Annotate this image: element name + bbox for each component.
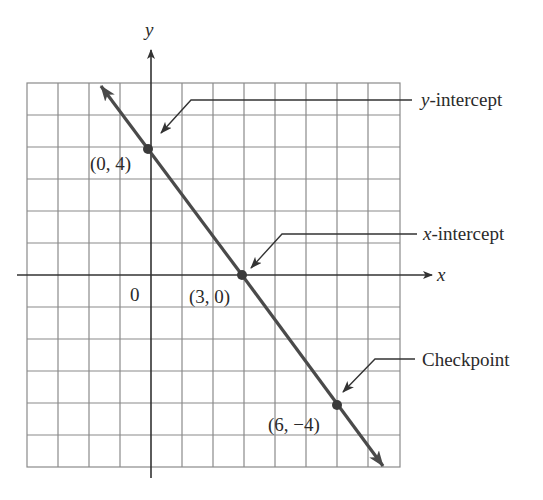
callout-checkpoint <box>343 359 415 392</box>
annotation-checkpoint: Checkpoint <box>422 350 510 369</box>
origin-label: 0 <box>130 285 140 304</box>
point-checkpoint <box>332 400 342 410</box>
point-y-intercept <box>143 144 153 154</box>
callout-y-intercept <box>161 100 412 133</box>
callout-x-intercept <box>251 234 417 268</box>
point-label-6-neg4: (6, −4) <box>268 415 320 434</box>
x-axis-label: x <box>437 265 445 284</box>
annotation-x-intercept: x-intercept <box>423 224 504 243</box>
point-label-3-0: (3, 0) <box>189 287 230 306</box>
annotation-y-rest: -intercept <box>429 89 502 110</box>
point-x-intercept <box>237 270 247 280</box>
y-axis-label: y <box>145 20 153 39</box>
annotation-x-rest: -intercept <box>431 223 504 244</box>
point-label-0-4: (0, 4) <box>90 154 131 173</box>
annotation-y-intercept: y-intercept <box>421 90 502 109</box>
graph-line <box>101 86 242 275</box>
